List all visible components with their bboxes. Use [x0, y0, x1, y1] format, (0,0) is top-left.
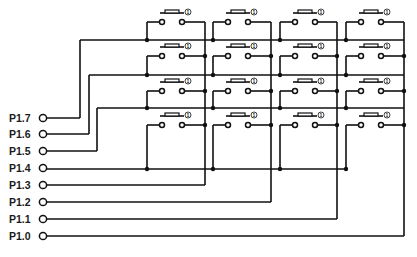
- button-cap: [298, 113, 312, 116]
- port-label: P1.7: [9, 112, 31, 124]
- terminal-icon: [39, 198, 46, 205]
- switch-number: 1: [187, 43, 190, 49]
- port-p1-7: P1.7: [9, 112, 47, 124]
- switch-contact: [293, 54, 298, 59]
- port-p1-4: P1.4: [9, 162, 47, 174]
- button-cap: [231, 79, 245, 82]
- push-button-switch: 1: [147, 9, 205, 40]
- switch-number: 1: [386, 43, 389, 49]
- push-button-switch: 1: [280, 43, 337, 75]
- port-p1-5: P1.5: [9, 145, 47, 157]
- switch-contact: [359, 20, 364, 25]
- switch-number: 1: [320, 112, 323, 118]
- terminal-icon: [39, 215, 46, 222]
- switch-contact: [359, 123, 364, 128]
- switch-number: 1: [320, 9, 323, 15]
- button-cap: [165, 44, 179, 47]
- button-cap: [298, 10, 312, 13]
- switch-number: 1: [386, 9, 389, 15]
- switch-contact: [313, 89, 318, 94]
- port-label: P1.0: [9, 230, 31, 242]
- switch-contact: [160, 89, 165, 94]
- button-cap: [364, 113, 378, 116]
- button-cap: [165, 10, 179, 13]
- switch-number: 1: [386, 112, 389, 118]
- switch-contact: [379, 20, 384, 25]
- port-p1-1: P1.1: [9, 213, 47, 225]
- port-label: P1.1: [9, 213, 31, 225]
- switch-contact: [293, 123, 298, 128]
- button-cap: [364, 44, 378, 47]
- port-p1-0: P1.0: [9, 230, 47, 242]
- switch-contact: [180, 123, 185, 128]
- button-cap: [231, 10, 245, 13]
- keypad-matrix-diagram: 1111111111111111 P1.7P1.6P1.5P1.4P1.3P1.…: [0, 0, 417, 257]
- button-cap: [165, 79, 179, 82]
- push-button-switch: 1: [213, 112, 271, 169]
- port-label: P1.2: [9, 196, 31, 208]
- button-cap: [364, 79, 378, 82]
- push-button-switch: 1: [280, 78, 337, 108]
- push-button-switch: 1: [147, 112, 205, 169]
- button-cap: [298, 44, 312, 47]
- button-cap: [231, 44, 245, 47]
- switch-number: 1: [253, 43, 256, 49]
- switch-number: 1: [253, 9, 256, 15]
- switch-contact: [160, 123, 165, 128]
- switch-contact: [226, 20, 231, 25]
- button-cap: [364, 10, 378, 13]
- push-button-switch: 1: [213, 9, 271, 40]
- switch-contact: [246, 20, 251, 25]
- push-button-switch: 1: [346, 112, 404, 169]
- push-button-switch: 1: [280, 9, 337, 40]
- push-button-switch: 1: [213, 43, 271, 75]
- switch-contact: [293, 89, 298, 94]
- switch-number: 1: [386, 78, 389, 84]
- switch-contact: [180, 54, 185, 59]
- switch-number: 1: [320, 43, 323, 49]
- switch-contact: [379, 54, 384, 59]
- switch-contact: [226, 54, 231, 59]
- switch-number: 1: [320, 78, 323, 84]
- push-button-switch: 1: [213, 78, 271, 108]
- switch-contact: [246, 89, 251, 94]
- port-label: P1.5: [9, 145, 31, 157]
- terminal-icon: [39, 130, 46, 137]
- switch-number: 1: [253, 112, 256, 118]
- terminal-icon: [39, 164, 46, 171]
- switch-contact: [313, 123, 318, 128]
- switch-contact: [246, 123, 251, 128]
- switch-contact: [359, 89, 364, 94]
- push-button-switch: 1: [147, 43, 205, 75]
- switch-number: 1: [187, 78, 190, 84]
- button-cap: [165, 113, 179, 116]
- switch-contact: [226, 89, 231, 94]
- port-p1-2: P1.2: [9, 196, 47, 208]
- port-p1-3: P1.3: [9, 179, 47, 191]
- switch-contact: [293, 20, 298, 25]
- terminal-icon: [39, 232, 46, 239]
- switch-contact: [180, 20, 185, 25]
- push-button-switch: 1: [346, 9, 404, 40]
- switch-contact: [226, 123, 231, 128]
- terminal-icon: [39, 114, 46, 121]
- port-label: P1.6: [9, 128, 31, 140]
- switch-grid: 1111111111111111: [147, 9, 404, 169]
- switch-contact: [359, 54, 364, 59]
- switch-contact: [379, 89, 384, 94]
- button-cap: [298, 79, 312, 82]
- switch-contact: [313, 20, 318, 25]
- terminal-icon: [39, 147, 46, 154]
- port-label: P1.3: [9, 179, 31, 191]
- switch-number: 1: [187, 112, 190, 118]
- switch-contact: [246, 54, 251, 59]
- switch-number: 1: [253, 78, 256, 84]
- push-button-switch: 1: [346, 78, 404, 108]
- port-label: P1.4: [9, 162, 31, 174]
- switch-contact: [160, 54, 165, 59]
- push-button-switch: 1: [346, 43, 404, 75]
- switch-number: 1: [187, 9, 190, 15]
- switch-contact: [379, 123, 384, 128]
- port-p1-6: P1.6: [9, 128, 47, 140]
- terminal-icon: [39, 181, 46, 188]
